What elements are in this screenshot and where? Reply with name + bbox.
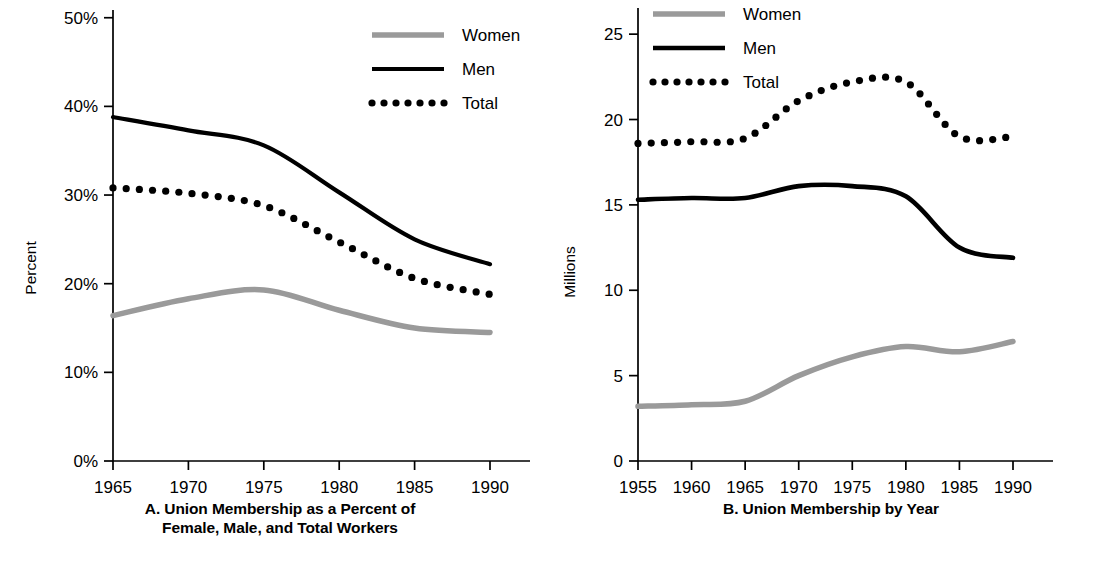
legend-label-men: Men xyxy=(743,39,776,58)
series-line-total xyxy=(109,184,492,297)
x-tick-label: 1975 xyxy=(833,478,871,497)
x-tick-label: 1990 xyxy=(471,478,509,497)
chart-panel-b: 0510152025195519601965197019751980198519… xyxy=(553,0,1109,569)
legend-swatch-total xyxy=(368,99,375,106)
y-axis-title: Percent xyxy=(22,241,39,295)
y-tick-label: 0 xyxy=(614,452,623,471)
legend-swatch-total xyxy=(721,78,728,85)
chart-a-caption: A. Union Membership as a Percent of Fema… xyxy=(0,499,560,537)
chart-a-caption-line1: A. Union Membership as a Percent of xyxy=(0,499,560,518)
y-tick-label: 5 xyxy=(614,367,623,386)
chart-a-caption-line2: Female, Male, and Total Workers xyxy=(0,518,560,537)
chart-a-plot: 0%10%20%30%40%50%19651970197519801985199… xyxy=(0,0,560,499)
chart-b-caption-line1: B. Union Membership by Year xyxy=(553,499,1109,518)
legend-label-men: Men xyxy=(462,60,495,79)
x-tick-label: 1985 xyxy=(941,478,979,497)
series-line-men xyxy=(113,117,490,264)
legend-swatch-total xyxy=(661,78,668,85)
y-tick-label: 0% xyxy=(73,452,98,471)
legend-swatch-total xyxy=(416,99,423,106)
legend-swatch-total xyxy=(392,99,399,106)
x-tick-label: 1990 xyxy=(994,478,1032,497)
legend-label-total: Total xyxy=(743,73,779,92)
figure-root: 0%10%20%30%40%50%19651970197519801985199… xyxy=(0,0,1109,569)
x-tick-label: 1970 xyxy=(169,478,207,497)
chart-panel-a: 0%10%20%30%40%50%19651970197519801985199… xyxy=(0,0,560,569)
y-tick-label: 15 xyxy=(604,196,623,215)
y-axis-title: Millions xyxy=(561,246,578,298)
y-tick-label: 40% xyxy=(64,97,98,116)
y-tick-label: 30% xyxy=(64,186,98,205)
legend-swatch-total xyxy=(685,78,692,85)
x-tick-label: 1980 xyxy=(887,478,925,497)
legend-swatch-total xyxy=(440,99,447,106)
legend-swatch-total xyxy=(709,78,716,85)
x-tick-label: 1955 xyxy=(619,478,657,497)
y-tick-label: 20% xyxy=(64,275,98,294)
legend-label-women: Women xyxy=(743,5,801,24)
x-tick-label: 1975 xyxy=(245,478,283,497)
legend-swatch-total xyxy=(673,78,680,85)
y-tick-label: 10 xyxy=(604,281,623,300)
legend-label-total: Total xyxy=(462,94,498,113)
legend-swatch-total xyxy=(428,99,435,106)
legend-swatch-total xyxy=(380,99,387,106)
y-tick-label: 50% xyxy=(64,9,98,28)
x-tick-label: 1970 xyxy=(780,478,818,497)
legend-swatch-total xyxy=(697,78,704,85)
axis-spine xyxy=(638,8,1053,461)
y-tick-label: 25 xyxy=(604,25,623,44)
legend-swatch-total xyxy=(649,78,656,85)
x-tick-label: 1965 xyxy=(94,478,132,497)
chart-b-caption: B. Union Membership by Year xyxy=(553,499,1109,518)
series-line-women xyxy=(638,341,1013,406)
chart-b-plot: 0510152025195519601965197019751980198519… xyxy=(553,0,1109,499)
legend-label-women: Women xyxy=(462,26,520,45)
y-tick-label: 10% xyxy=(64,363,98,382)
x-tick-label: 1985 xyxy=(396,478,434,497)
legend: WomenMenTotal xyxy=(649,5,801,92)
x-tick-label: 1965 xyxy=(726,478,764,497)
y-tick-label: 20 xyxy=(604,111,623,130)
x-tick-label: 1980 xyxy=(320,478,358,497)
x-tick-label: 1960 xyxy=(673,478,711,497)
legend-swatch-total xyxy=(404,99,411,106)
series-line-men xyxy=(638,185,1013,258)
series-line-women xyxy=(113,290,490,333)
legend: WomenMenTotal xyxy=(368,26,520,113)
